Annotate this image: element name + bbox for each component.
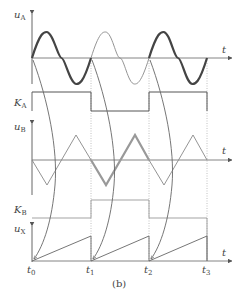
label-t-uX: t — [222, 247, 227, 258]
trigger-arrow-t1 — [92, 60, 115, 259]
label-uA: uA — [14, 9, 26, 22]
trigger-arrow-t0 — [33, 60, 56, 259]
label-t-uA: t — [222, 44, 227, 55]
signal-uX — [32, 236, 207, 261]
trigger-arrows — [33, 60, 173, 259]
trigger-arrow-t2 — [150, 60, 173, 259]
timing-diagram-svg: uA KA uB KB uX t t t t0 t1 t2 t3 (b) — [0, 0, 246, 297]
label-t3: t3 — [202, 264, 211, 277]
label-t2: t2 — [144, 264, 153, 277]
label-t0: t0 — [27, 264, 36, 277]
label-KA: KA — [13, 97, 27, 110]
figure-caption: (b) — [112, 278, 126, 289]
label-KB: KB — [13, 204, 27, 217]
label-t-uB: t — [222, 145, 227, 156]
time-mark-labels: t0 t1 t2 t3 — [27, 264, 211, 277]
label-uB: uB — [14, 121, 26, 134]
label-t1: t1 — [86, 264, 95, 277]
timing-diagram: uA KA uB KB uX t t t t0 t1 t2 t3 (b) — [0, 0, 246, 297]
signal-KB — [32, 200, 207, 261]
label-uX: uX — [14, 223, 25, 236]
signal-KA — [32, 92, 207, 111]
axis-labels: uA KA uB KB uX t t t — [13, 9, 227, 258]
